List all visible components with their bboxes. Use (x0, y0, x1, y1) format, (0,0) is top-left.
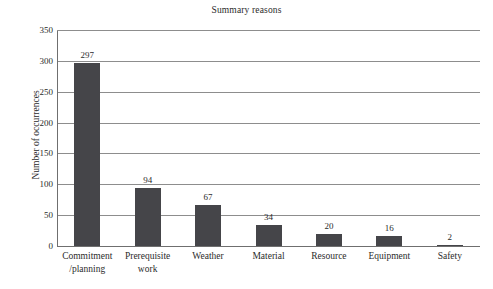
bar-value-label: 94 (143, 175, 152, 186)
plot-area: 29794673420162 (57, 31, 480, 247)
x-tick-label-line: Safety (438, 251, 462, 261)
bar[interactable]: 67 (195, 192, 221, 246)
x-tick-label-line: Prerequisite (125, 251, 170, 261)
x-tick-label: Resource (299, 250, 359, 263)
x-tick-label: Safety (420, 250, 480, 263)
bar[interactable]: 34 (256, 212, 282, 246)
bar[interactable]: 94 (135, 175, 161, 246)
bar-value-label: 16 (385, 223, 394, 234)
y-tick-label: 350 (23, 25, 53, 35)
x-tick-label: Equipment (359, 250, 419, 263)
x-tick-label-line: Equipment (369, 251, 411, 261)
bar-rect (316, 234, 342, 246)
y-axis-line (57, 31, 58, 247)
x-tick-label-line: Resource (311, 251, 346, 261)
gridline (57, 92, 480, 93)
x-tick-label: Material (238, 250, 298, 263)
bar-value-label: 2 (448, 232, 453, 243)
x-tick-label: Weather (178, 250, 238, 263)
bar-value-label: 297 (80, 50, 94, 61)
y-tick-label: 100 (23, 179, 53, 189)
bar-value-label: 34 (264, 212, 273, 223)
y-tick-label: 150 (23, 148, 53, 158)
y-tick-label: 300 (23, 56, 53, 66)
x-tick-label: Prerequisitework (117, 250, 177, 276)
x-tick-label-line: Commitment (62, 251, 112, 261)
gridline (57, 30, 480, 31)
bar-rect (195, 205, 221, 246)
bar-value-label: 20 (324, 221, 333, 232)
y-axis-title: Number of occurrences (31, 55, 41, 215)
y-tick-label: 200 (23, 118, 53, 128)
bar-rect (437, 245, 463, 247)
bar[interactable]: 2 (437, 232, 463, 247)
bar-rect (256, 225, 282, 246)
gridline (57, 123, 480, 124)
x-tick-label: Commitment/planning (57, 250, 117, 276)
x-tick-label-line: Weather (192, 251, 223, 261)
y-tick-label: 50 (23, 210, 53, 220)
bar-rect (74, 63, 100, 246)
chart-title: Summary reasons (0, 5, 493, 15)
gridline (57, 184, 480, 185)
gridline (57, 153, 480, 154)
bar-rect (376, 236, 402, 246)
y-tick-label: 250 (23, 87, 53, 97)
bar[interactable]: 297 (74, 50, 100, 246)
bar[interactable]: 20 (316, 221, 342, 246)
x-tick-label-line: Material (252, 251, 284, 261)
x-axis-line (57, 246, 480, 247)
y-tick-label: 0 (23, 241, 53, 251)
bar-chart-figure: Summary reasons Number of occurrences 05… (0, 0, 493, 289)
x-tick-label-line: /planning (57, 263, 117, 276)
bar[interactable]: 16 (376, 223, 402, 246)
x-tick-label-line: work (117, 263, 177, 276)
gridline (57, 61, 480, 62)
bar-value-label: 67 (204, 192, 213, 203)
bar-rect (135, 188, 161, 246)
